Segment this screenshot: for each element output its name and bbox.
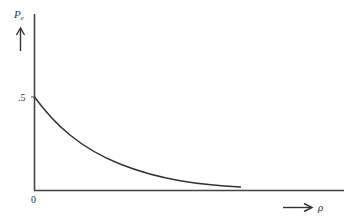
origin-label: 0 — [31, 194, 36, 205]
y-axis-label: Pe — [13, 8, 24, 22]
x-axis-label: ρ — [317, 201, 323, 213]
arrow-up-icon — [17, 28, 25, 51]
decay-curve — [35, 97, 242, 187]
arrow-right-icon — [283, 204, 312, 212]
chart: Pe .5 0 ρ — [0, 0, 358, 220]
y-tick-label: .5 — [18, 92, 26, 103]
